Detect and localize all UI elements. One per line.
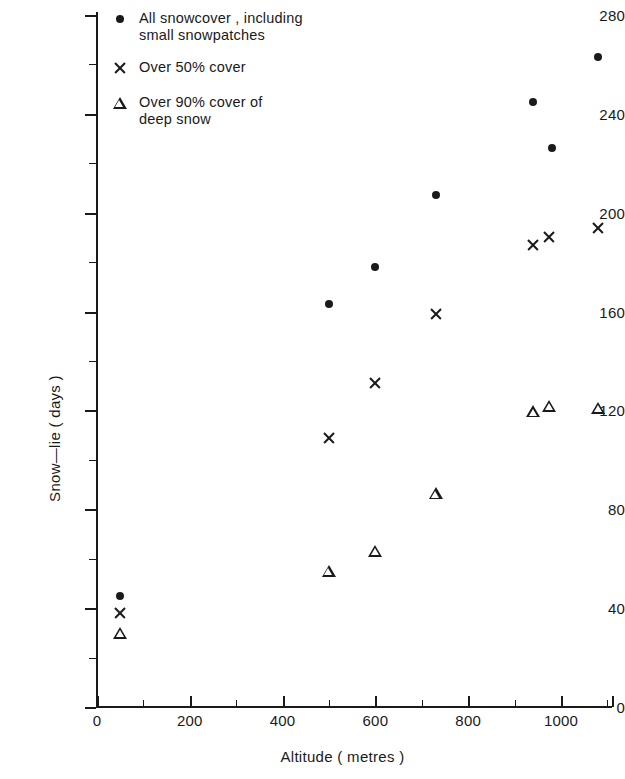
x-tick-label: 200 xyxy=(177,712,203,729)
x-tick-label: 1000 xyxy=(544,712,578,729)
marker-triangle-s2-p5 xyxy=(542,400,556,412)
marker-dot-s0-p4 xyxy=(529,98,537,106)
legend-label: All snowcover , including small snowpatc… xyxy=(139,10,303,44)
x-tick-minor xyxy=(236,700,237,706)
y-tick-label: 40 xyxy=(579,600,625,617)
marker-dot-s0-p2 xyxy=(371,263,379,271)
x-tick-label: 400 xyxy=(270,712,296,729)
marker-dot-s0-p6 xyxy=(594,53,602,61)
x-tick-major xyxy=(561,696,563,706)
y-tick-label: 240 xyxy=(579,105,625,122)
y-tick-minor xyxy=(89,262,96,263)
y-axis-title: Snow—lie ( days ) xyxy=(46,349,63,529)
marker-cross-s1-p1 xyxy=(322,431,336,445)
scatter-plot: 04080120160200240280 02004006008001000 S… xyxy=(0,0,625,779)
marker-dot-s0-p3 xyxy=(432,191,440,199)
y-tick-major xyxy=(85,312,96,314)
marker-cross-s1-p2 xyxy=(368,376,382,390)
y-tick-minor xyxy=(89,559,96,560)
marker-triangle-s2-p0 xyxy=(113,627,127,639)
x-tick-minor xyxy=(143,700,144,706)
marker-dot-s0-p1 xyxy=(325,300,333,308)
legend-marker xyxy=(113,94,139,114)
x-tick-label: 800 xyxy=(455,712,481,729)
legend-label: Over 90% cover of deep snow xyxy=(139,94,262,128)
chart-legend: All snowcover , including small snowpatc… xyxy=(113,10,363,143)
y-tick-label: 280 xyxy=(579,7,625,24)
legend-item-dot: All snowcover , including small snowpatc… xyxy=(113,10,363,44)
y-tick-minor xyxy=(89,658,96,659)
y-tick-major xyxy=(85,509,96,511)
legend-item-triangle: Over 90% cover of deep snow xyxy=(113,94,363,128)
legend-marker xyxy=(113,59,139,79)
marker-triangle xyxy=(113,97,127,109)
x-tick-major xyxy=(468,696,470,706)
y-tick-label: 80 xyxy=(579,501,625,518)
marker-dot-s0-p0 xyxy=(116,592,124,600)
marker-triangle-s2-p4 xyxy=(526,405,540,417)
y-tick-minor xyxy=(89,460,96,461)
y-tick-minor xyxy=(89,361,96,362)
marker-cross-s1-p5 xyxy=(542,230,556,244)
marker-triangle-s2-p3 xyxy=(429,487,443,499)
marker-dot-s0-p5 xyxy=(548,144,556,152)
x-tick-major xyxy=(190,696,192,706)
y-tick-major xyxy=(85,213,96,215)
x-axis-line xyxy=(96,706,612,708)
x-axis-title: Altitude ( metres ) xyxy=(0,748,625,765)
x-tick-minor xyxy=(515,700,516,706)
marker-triangle-s2-p1 xyxy=(322,565,336,577)
legend-label: Over 50% cover xyxy=(139,59,246,76)
x-tick-major xyxy=(97,696,99,706)
y-tick-label: 0 xyxy=(579,699,625,716)
legend-marker xyxy=(113,10,139,30)
y-tick-major xyxy=(85,15,96,17)
x-tick-major xyxy=(375,696,377,706)
marker-triangle-s2-p6 xyxy=(591,402,605,414)
marker-cross-s1-p0 xyxy=(113,606,127,620)
x-tick-minor xyxy=(422,700,423,706)
x-tick-major xyxy=(283,696,285,706)
y-tick-minor xyxy=(89,163,96,164)
x-tick-label: 0 xyxy=(93,712,102,729)
y-tick-major xyxy=(85,608,96,610)
marker-cross-s1-p6 xyxy=(591,221,605,235)
y-tick-label: 200 xyxy=(579,204,625,221)
y-tick-minor xyxy=(89,64,96,65)
x-tick-minor xyxy=(329,700,330,706)
x-tick-label: 600 xyxy=(363,712,389,729)
marker-triangle-s2-p2 xyxy=(368,545,382,557)
legend-item-cross: Over 50% cover xyxy=(113,59,363,79)
y-tick-label: 160 xyxy=(579,303,625,320)
y-tick-major xyxy=(85,114,96,116)
y-axis-line xyxy=(96,12,98,708)
marker-cross xyxy=(113,61,127,75)
y-tick-major xyxy=(85,410,96,412)
marker-dot xyxy=(116,15,124,23)
y-tick-major xyxy=(85,707,96,709)
marker-cross-s1-p3 xyxy=(429,307,443,321)
marker-cross-s1-p4 xyxy=(526,238,540,252)
